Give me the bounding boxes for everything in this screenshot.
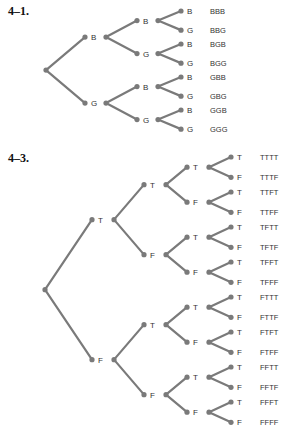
branch-line	[209, 227, 231, 237]
node-label: T	[237, 258, 242, 267]
node-label: T	[150, 321, 155, 330]
tree-node	[228, 294, 233, 299]
node-label: G	[187, 26, 193, 35]
outcome-label: TFFT	[260, 258, 279, 267]
tree-node	[178, 41, 183, 46]
node-label: B	[187, 106, 192, 115]
branch-line	[166, 237, 187, 255]
branch-line	[209, 402, 231, 412]
node-label: T	[237, 223, 242, 232]
node-label: F	[98, 356, 103, 365]
branch-line	[158, 120, 181, 130]
branch-line	[209, 192, 231, 202]
node-label: F	[193, 198, 198, 207]
tree-node	[178, 74, 183, 79]
tree-node	[228, 280, 233, 285]
branch-line	[158, 11, 181, 21]
node-label: G	[187, 125, 193, 134]
branch-line	[158, 77, 181, 87]
node-label: F	[237, 173, 242, 182]
outcome-label: BGG	[210, 59, 227, 68]
branch-line	[166, 185, 187, 203]
branch-line	[209, 332, 231, 342]
node-label: T	[193, 303, 198, 312]
outcome-label: FTFT	[260, 328, 279, 337]
node-label: B	[187, 73, 192, 82]
outcome-label: TTTF	[260, 173, 279, 182]
node-label: F	[193, 268, 198, 277]
node-label: F	[237, 208, 242, 217]
branch-line	[114, 360, 144, 395]
outcome-label: FFFF	[260, 418, 279, 427]
branch-line	[209, 412, 231, 422]
tree-node	[184, 340, 189, 345]
tree-node	[228, 385, 233, 390]
node-label: T	[193, 233, 198, 242]
tree-node	[228, 175, 233, 180]
branch-line	[45, 290, 92, 360]
tree-node	[89, 357, 94, 362]
tree-node	[228, 399, 233, 404]
tree-node	[134, 84, 139, 89]
branch-line	[209, 342, 231, 352]
branch-line	[114, 220, 144, 255]
tree-node	[184, 305, 189, 310]
node-label: F	[193, 408, 198, 417]
tree-node	[178, 94, 183, 99]
tree-node	[134, 117, 139, 122]
outcome-label: FTFF	[260, 348, 279, 357]
outcome-label: BGB	[210, 40, 226, 49]
node-label: F	[237, 418, 242, 427]
tree-node	[89, 217, 94, 222]
tree-node	[228, 315, 233, 320]
branch-line	[114, 325, 144, 360]
tree-node	[141, 252, 146, 257]
node-label: T	[193, 163, 198, 172]
branch-line	[209, 272, 231, 282]
tree-node	[82, 100, 87, 105]
outcome-label: GBG	[210, 92, 227, 101]
tree-node	[178, 28, 183, 33]
branch-line	[209, 377, 231, 387]
outcome-label: GGG	[210, 125, 228, 134]
node-label: G	[91, 99, 97, 108]
node-label: F	[237, 348, 242, 357]
tree-diagrams: BGBGBGBBBBGBBGBBGBGBGGBGBBGGBGBGGBGGGGTF…	[0, 0, 282, 443]
node-label: B	[143, 17, 148, 26]
outcome-label: FFTF	[260, 383, 279, 392]
node-label: F	[237, 383, 242, 392]
node-label: T	[98, 216, 103, 225]
tree-node	[178, 127, 183, 132]
node-label: T	[237, 188, 242, 197]
branch-line	[209, 262, 231, 272]
node-label: B	[91, 33, 96, 42]
tree-node	[134, 18, 139, 23]
tree-node	[228, 189, 233, 194]
branch-line	[46, 37, 85, 70]
outcome-label: TFTF	[260, 243, 279, 252]
outcome-label: FFTT	[260, 363, 279, 372]
tree-node	[228, 364, 233, 369]
node-label: B	[187, 40, 192, 49]
tree-node	[228, 210, 233, 215]
outcome-label: BBB	[210, 7, 225, 16]
outcome-label: TTTT	[260, 153, 279, 162]
node-label: T	[237, 363, 242, 372]
outcome-label: GGB	[210, 106, 227, 115]
node-label: B	[143, 83, 148, 92]
branch-line	[158, 54, 181, 64]
branch-line	[209, 202, 231, 212]
node-label: T	[237, 398, 242, 407]
tree-node	[178, 61, 183, 66]
tree-node	[228, 245, 233, 250]
branch-line	[106, 103, 137, 120]
node-label: F	[237, 313, 242, 322]
node-label: G	[187, 92, 193, 101]
outcome-label: TTFT	[260, 188, 279, 197]
branch-line	[114, 185, 144, 220]
tree-node	[184, 410, 189, 415]
branch-line	[158, 87, 181, 97]
node-label: F	[193, 338, 198, 347]
node-label: F	[150, 251, 155, 260]
tree-node	[228, 420, 233, 425]
